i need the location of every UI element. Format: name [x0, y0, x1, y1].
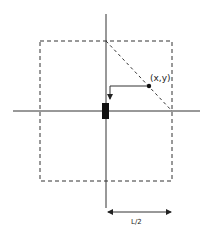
point-xy: [147, 84, 151, 88]
diagram-svg: (x,y) L/2: [0, 0, 207, 229]
half-length-label: L/2: [131, 218, 142, 226]
projection-arrow: [110, 86, 149, 99]
diagram-canvas: (x,y) L/2: [0, 0, 207, 229]
point-label: (x,y): [150, 73, 171, 83]
black-rectangle: [102, 103, 109, 119]
